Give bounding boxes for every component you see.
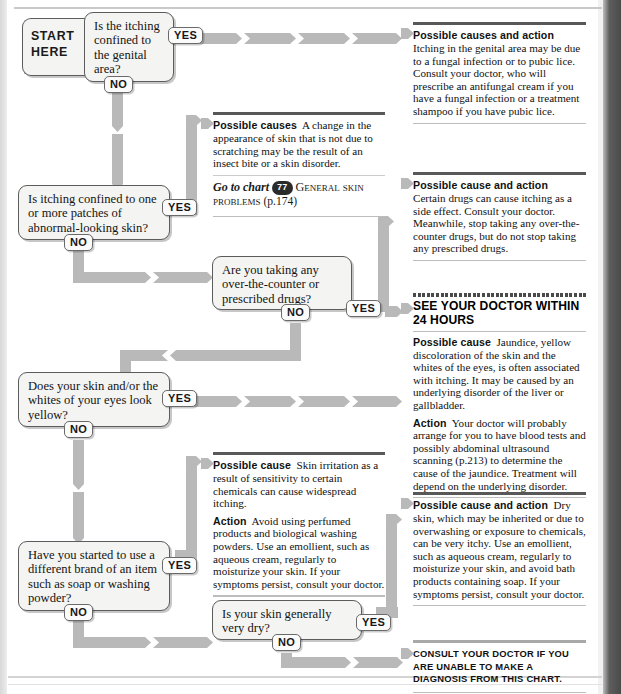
panel-mid-rule <box>213 175 385 176</box>
panel-urgent-rule <box>413 293 586 297</box>
panel-bottom-rule <box>413 605 586 606</box>
answer-tag-q5-no[interactable]: NO <box>64 604 93 621</box>
connector-q6-yes-arrow <box>386 514 402 525</box>
question-text-q5: Have you started to use a different bran… <box>28 548 157 605</box>
panel-bottom-rule <box>413 123 586 124</box>
question-text-q1: Is the itching confined to the genital a… <box>94 19 160 76</box>
panel-lead: Possible cause and action <box>413 499 548 511</box>
panel-top-rule <box>213 112 385 115</box>
goto-chart-label: Go to chart <box>213 180 269 194</box>
panel-lead: Possible cause and action <box>413 179 548 191</box>
panel-jaundice-cause: Possible cause Jaundice, yellow discolor… <box>413 336 586 412</box>
panel-bottom-rule <box>413 692 586 693</box>
answer-tag-q5-yes[interactable]: YES <box>162 557 197 574</box>
panel-top-rule <box>213 452 385 455</box>
answer-tag-q1-no[interactable]: NO <box>104 76 133 93</box>
panel-bottom-rule <box>213 216 385 217</box>
connector-q5-yes-vert <box>186 462 197 561</box>
connector-q2-no-arrow <box>95 272 213 283</box>
answer-tag-q6-no[interactable]: NO <box>272 634 301 651</box>
answer-tag-q3-no[interactable]: NO <box>281 304 310 321</box>
connector-q3-yes-bar <box>378 222 389 312</box>
panel-genital: Possible causes and action Itching in th… <box>413 22 586 124</box>
question-text-q3: Are you taking any over-the-counter or p… <box>222 263 319 306</box>
panel-header-underline <box>413 331 586 332</box>
connector-q4-yes <box>190 396 402 407</box>
page-edge-left <box>0 0 7 694</box>
panel-lead: Action <box>413 417 447 429</box>
panel-top-rule <box>413 22 586 25</box>
answer-tag-q2-yes[interactable]: YES <box>162 199 197 216</box>
panel-irritation: Possible cause Skin irritation as a resu… <box>213 452 385 597</box>
answer-tag-q2-no[interactable]: NO <box>64 234 93 251</box>
question-box-q3[interactable]: Are you taking any over-the-counter or p… <box>212 256 352 310</box>
connector-q6-yes-vert <box>386 520 397 618</box>
question-box-q4[interactable]: Does your skin and/or the whites of your… <box>18 372 170 427</box>
panel-lead: Possible causes and action <box>413 29 554 41</box>
goto-chart-link[interactable]: Go to chart 77 General skin problems (p.… <box>213 181 385 209</box>
panel-jaundice: SEE YOUR DOCTOR WITHIN 24 HOURS Possible… <box>413 293 586 498</box>
panel-bottom-rule <box>413 260 586 261</box>
chart-page: START HERE Is the itching confined to th… <box>0 0 621 694</box>
connector-q3-no-arrow <box>120 350 216 361</box>
panel-consult: Consult your doctor if you are unable to… <box>413 640 586 693</box>
connector-q1-no <box>112 78 123 190</box>
answer-tag-q4-no[interactable]: NO <box>64 421 93 438</box>
question-box-q1[interactable]: Is the itching confined to the genital a… <box>84 12 174 82</box>
panel-patches-text: Possible causes A change in the appearan… <box>213 119 385 169</box>
answer-tag-q6-yes[interactable]: YES <box>356 614 391 631</box>
panel-patches: Possible causes A change in the appearan… <box>213 112 385 217</box>
panel-genital-text: Possible causes and action Itching in th… <box>413 29 586 117</box>
panel-top-rule <box>413 492 586 495</box>
connector-q2-yes-arrow <box>186 115 202 126</box>
top-rule <box>14 7 602 9</box>
panel-jaundice-action: Action Your doctor will probably arrange… <box>413 417 586 493</box>
urgent-header: SEE YOUR DOCTOR WITHIN 24 HOURS <box>413 299 586 327</box>
panel-lead: Action <box>213 515 247 527</box>
panel-irritation-cause: Possible cause Skin irritation as a resu… <box>213 459 385 509</box>
goto-chart-page: (p.174) <box>263 195 297 208</box>
panel-top-rule <box>413 172 586 175</box>
connector-q1-yes <box>190 33 402 44</box>
question-box-q5[interactable]: Have you started to use a different bran… <box>18 541 170 611</box>
panel-lead: Possible cause <box>413 336 491 348</box>
page-edge-right <box>603 0 621 694</box>
connector-q3-yes-arrow2 <box>378 216 394 227</box>
question-text-q4: Does your skin and/or the whites of your… <box>28 379 158 422</box>
panel-lead: Possible causes <box>213 119 297 131</box>
panel-top-rule <box>413 640 586 643</box>
question-text-q2: Is itching confined to one or more patch… <box>28 192 157 235</box>
panel-bottom-rule <box>213 595 385 596</box>
connector-q5-no-arrow <box>95 637 213 648</box>
question-box-q2[interactable]: Is itching confined to one or more patch… <box>18 185 170 240</box>
answer-tag-q3-yes[interactable]: YES <box>346 300 381 317</box>
panel-irritation-action: Action Avoid using perfumed products and… <box>213 515 385 591</box>
panel-dryskin: Possible cause and action Dry skin, whic… <box>413 492 586 606</box>
panel-drugs: Possible cause and action Certain drugs … <box>413 172 586 261</box>
answer-tag-q1-yes[interactable]: YES <box>168 27 203 44</box>
connector-q5-yes-arrow <box>186 456 202 467</box>
panel-lead: Possible cause <box>213 459 291 471</box>
question-text-q6: Is your skin generally very dry? <box>222 607 331 635</box>
chart-number-badge: 77 <box>272 181 293 195</box>
panel-dryskin-text: Possible cause and action Dry skin, whic… <box>413 499 586 600</box>
consult-doctor-text: Consult your doctor if you are unable to… <box>413 648 586 685</box>
answer-tag-q4-yes[interactable]: YES <box>162 390 197 407</box>
connector-q6-no-arrow <box>303 657 403 668</box>
panel-drugs-text: Possible cause and action Certain drugs … <box>413 179 586 255</box>
connector-q3-yes <box>385 306 403 317</box>
connector-q4-no <box>73 440 84 544</box>
